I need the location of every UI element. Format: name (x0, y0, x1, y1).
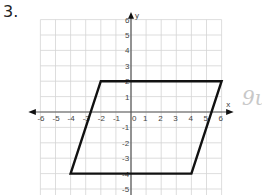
handwritten-answer: 9u (242, 86, 262, 110)
svg-text:-1: -1 (113, 114, 121, 123)
svg-text:-5: -5 (53, 114, 61, 123)
svg-text:2: 2 (158, 114, 163, 123)
svg-text:5: 5 (125, 31, 130, 40)
svg-text:-1: -1 (122, 123, 130, 132)
svg-text:-2: -2 (122, 139, 130, 148)
svg-text:-5: -5 (122, 185, 130, 194)
svg-text:-6: -6 (37, 114, 45, 123)
coordinate-graph: -6-5-4-3-2-10123456654321-1-2-3-4-5xy (0, 0, 262, 195)
svg-text:y: y (135, 11, 139, 20)
svg-text:0: 0 (132, 114, 137, 123)
svg-text:x: x (226, 100, 230, 109)
axes (28, 12, 233, 195)
svg-text:6: 6 (219, 114, 224, 123)
svg-text:3: 3 (125, 62, 130, 71)
svg-text:-3: -3 (122, 154, 130, 163)
svg-text:4: 4 (125, 46, 130, 55)
svg-text:6: 6 (125, 16, 130, 25)
tick-labels: -6-5-4-3-2-10123456654321-1-2-3-4-5xy (37, 11, 230, 194)
svg-text:1: 1 (125, 93, 130, 102)
svg-text:-4: -4 (68, 114, 76, 123)
svg-text:4: 4 (188, 114, 193, 123)
svg-text:-2: -2 (98, 114, 106, 123)
svg-text:3: 3 (173, 114, 178, 123)
svg-text:1: 1 (143, 114, 148, 123)
